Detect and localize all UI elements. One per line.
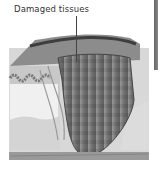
side-edge-bar <box>154 0 158 70</box>
damaged-tissues-label: Damaged tissues <box>14 4 89 14</box>
label-leader-line <box>76 16 77 62</box>
tissue-illustration <box>0 0 161 169</box>
